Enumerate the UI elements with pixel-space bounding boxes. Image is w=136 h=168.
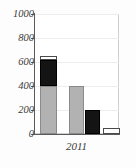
- x-axis-category-label-2011: 2011: [34, 140, 119, 152]
- bars-group: [34, 14, 119, 134]
- bar-1-stacked-white-segment: [40, 56, 57, 60]
- y-tick-label-600: 600: [3, 57, 34, 67]
- y-tick-label-800: 800: [3, 33, 34, 43]
- x-axis-line: [34, 134, 120, 135]
- y-tick-label-0: 0: [3, 129, 34, 139]
- y-tick-label-1000: 1000: [3, 9, 34, 19]
- y-tick-label-400: 400: [3, 81, 34, 91]
- bar-1-stacked-gray-segment: [40, 86, 57, 134]
- y-tick-label-200: 200: [3, 105, 34, 115]
- bar-3-black-black-segment: [85, 110, 100, 134]
- bar-2-gray-gray-segment: [69, 86, 84, 134]
- bar-1-stacked-black-segment: [40, 60, 57, 86]
- bar-chart: 02004006008001000 2011: [0, 0, 136, 168]
